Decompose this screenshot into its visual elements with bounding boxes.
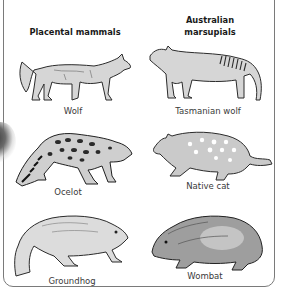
- groundhog-illustration: [12, 210, 134, 280]
- heading-line-2: marsupials: [168, 26, 252, 38]
- heading-australian-marsupials: Australian marsupials: [168, 14, 252, 38]
- ocelot-illustration: [10, 126, 138, 188]
- wolf-illustration: [14, 44, 134, 106]
- label-tasmanian-wolf: Tasmanian wolf: [158, 106, 258, 116]
- wombat-illustration: [148, 208, 268, 272]
- label-wombat: Wombat: [155, 271, 255, 281]
- label-native-cat: Native cat: [158, 181, 258, 191]
- label-groundhog: Groundhog: [22, 276, 122, 286]
- label-ocelot: Ocelot: [18, 187, 118, 197]
- heading-placental-mammals: Placental mammals: [20, 26, 130, 38]
- label-wolf: Wolf: [23, 106, 123, 116]
- native-cat-illustration: [150, 128, 276, 182]
- tasmanian-wolf-illustration: [148, 44, 273, 108]
- heading-line-1: Australian: [168, 14, 252, 26]
